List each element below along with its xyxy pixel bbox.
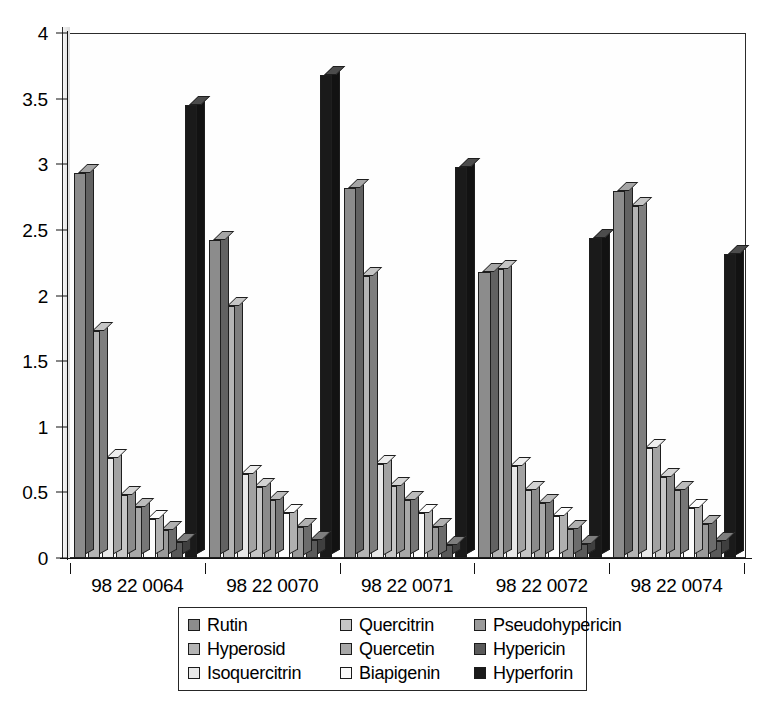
bar-top (510, 457, 532, 466)
legend-swatch-icon (340, 619, 352, 631)
legend-label: Pseudohypericin (493, 616, 622, 635)
bar-side (532, 481, 540, 554)
bar-group (474, 33, 609, 558)
bar-top (241, 465, 263, 474)
x-tick-mark (609, 563, 610, 574)
bar-top (147, 510, 169, 519)
legend-swatch-icon (340, 667, 352, 679)
legend-item[interactable]: Isoquercitrin (188, 664, 340, 683)
bar-side (625, 182, 633, 554)
bar-face (209, 240, 221, 558)
x-tick-mark (744, 563, 745, 574)
bar-face (724, 254, 736, 559)
bar-side (384, 455, 392, 554)
x-category-label: 98 22 0072 (496, 575, 588, 596)
bar-side (100, 322, 108, 554)
legend-item[interactable]: Quercitrin (340, 616, 474, 635)
bar-top (700, 515, 722, 524)
bar-top (524, 481, 546, 490)
legend-item[interactable]: Hypericin (474, 640, 622, 659)
bar-top (92, 322, 114, 331)
bar-side (504, 261, 512, 554)
bar (320, 75, 332, 558)
legend-label: Hypericin (493, 640, 565, 659)
bar-top (417, 504, 439, 513)
bar-top (78, 164, 100, 173)
legend-item[interactable]: Quercetin (340, 640, 474, 659)
bar-top (552, 507, 574, 516)
x-category-label: 98 22 0071 (361, 575, 453, 596)
x-category-label: 98 22 0074 (631, 575, 723, 596)
bar-top (361, 267, 383, 276)
legend-item[interactable]: Rutin (188, 616, 340, 635)
bar-side (397, 477, 405, 554)
bar-face (455, 167, 467, 558)
legend-item[interactable]: Biapigenin (340, 664, 474, 683)
legend-label: Isoquercitrin (207, 664, 301, 683)
bar-top (213, 231, 235, 240)
bar-top (282, 504, 304, 513)
bar-top (389, 477, 411, 486)
bar-side (546, 494, 554, 554)
bar-face (320, 75, 332, 558)
bar-side (197, 97, 205, 554)
bar-face (613, 191, 625, 559)
bar-side (221, 232, 229, 554)
legend-swatch-icon (474, 643, 486, 655)
bar-side (602, 229, 610, 554)
bar-group (340, 33, 475, 558)
bar-side (332, 66, 340, 554)
bar-side (639, 198, 647, 554)
bar-chart: 00.511.522.533.54 98 22 006498 22 007098… (0, 0, 776, 727)
legend-item[interactable]: Hyperosid (188, 640, 340, 659)
bar-side (370, 267, 378, 554)
bar-top (227, 297, 249, 306)
legend-label: Hyperosid (207, 640, 285, 659)
bar-top (431, 518, 453, 527)
bar-top (617, 182, 639, 191)
bar-face (589, 238, 601, 558)
bar-side (518, 458, 526, 554)
legend-swatch-icon (474, 667, 486, 679)
x-tick-mark (205, 563, 206, 574)
bar-top (375, 455, 397, 464)
legend-label: Quercitrin (359, 616, 434, 635)
bar (344, 188, 356, 558)
x-category-label: 98 22 0070 (226, 575, 318, 596)
bar-side (86, 165, 94, 554)
bar (185, 105, 197, 558)
legend-swatch-icon (188, 667, 200, 679)
bar-top (296, 518, 318, 527)
x-tick-mark (474, 563, 475, 574)
legend: RutinQuercitrinPseudohypericinHyperosidQ… (178, 607, 587, 691)
bar-top (161, 521, 183, 530)
bar-group (205, 33, 340, 558)
bar (209, 240, 221, 558)
bar-side (491, 263, 499, 554)
bar-top (348, 179, 370, 188)
legend-item[interactable]: Hyperforin (474, 664, 622, 683)
bar-top (106, 449, 128, 458)
bar-face (478, 272, 490, 558)
bar-side (235, 297, 243, 554)
bar-side (467, 158, 475, 554)
bar-side (263, 479, 271, 554)
x-axis: 98 22 006498 22 007098 22 007198 22 0072… (0, 563, 776, 595)
legend-label: Rutin (207, 616, 248, 635)
bar-top (659, 468, 681, 477)
bar (478, 272, 490, 558)
bar-side (128, 486, 136, 554)
bar-side (356, 179, 364, 554)
bar-side (653, 439, 661, 554)
x-axis-line (60, 558, 752, 559)
bar-group (609, 33, 744, 558)
bar (724, 254, 736, 559)
bar-side (736, 245, 744, 554)
bar-top (268, 491, 290, 500)
bar-side (667, 468, 675, 554)
bar (74, 173, 86, 558)
y-axis-line (67, 31, 68, 560)
bar-top (120, 486, 142, 495)
legend-item[interactable]: Pseudohypericin (474, 616, 622, 635)
bar-top (631, 197, 653, 206)
